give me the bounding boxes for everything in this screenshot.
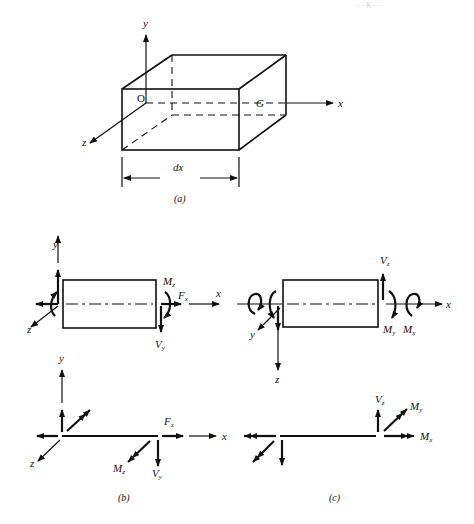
x-axis-label: x bbox=[445, 298, 451, 310]
beam-element-diagram: … g … y x z O G dx (a) bbox=[0, 0, 474, 524]
y-axis-label: y bbox=[58, 352, 64, 364]
z-axis-label: z bbox=[274, 373, 280, 385]
x-axis-label: x bbox=[337, 97, 343, 109]
figure-a-box-element: y x z O G dx (a) bbox=[81, 17, 343, 205]
figure-b-beam-segment: y z Mz Fx Vy x bbox=[26, 236, 221, 352]
centroid-label: G bbox=[256, 97, 264, 109]
shear-y-label: Vy bbox=[152, 467, 163, 481]
shear-z-label: Vz bbox=[375, 393, 385, 407]
x-axis-label: x bbox=[221, 430, 227, 442]
header-text-fragment: … g … bbox=[355, 0, 382, 8]
moment-y-label: My bbox=[382, 323, 396, 337]
z-axis-label: z bbox=[29, 457, 35, 469]
caption-b: (b) bbox=[118, 492, 130, 504]
x-axis-label: x bbox=[215, 287, 221, 299]
shear-y-label: Vy bbox=[155, 338, 166, 352]
caption-a: (a) bbox=[174, 193, 186, 205]
origin-label: O bbox=[137, 92, 145, 104]
y-axis-label: y bbox=[142, 17, 148, 29]
torsion-x-label: Mx bbox=[402, 323, 416, 337]
torsion-x-label: Mx bbox=[419, 430, 433, 444]
caption-c: (c) bbox=[329, 492, 341, 504]
z-axis-label: z bbox=[81, 136, 87, 148]
y-axis-label: y bbox=[52, 238, 58, 250]
shear-z-label: Vz bbox=[380, 254, 390, 268]
z-axis-label: z bbox=[26, 323, 32, 335]
y-axis-label: y bbox=[249, 328, 255, 340]
z-axis-arrow bbox=[90, 103, 146, 143]
moment-z-label: Mz bbox=[112, 462, 125, 476]
figure-b-vector-representation: y z Fx Mz Vy x (b) bbox=[29, 352, 227, 504]
figure-c-beam-segment: y z Vz x My Mx bbox=[237, 254, 451, 385]
axial-force-label: Fx bbox=[163, 415, 175, 429]
moment-y-label: My bbox=[409, 400, 423, 414]
moment-z-label: Mz bbox=[162, 275, 175, 289]
figure-c-vector-representation: Vz My Mx (c) bbox=[244, 393, 433, 504]
axial-force-label: Fx bbox=[177, 289, 189, 303]
dimension-dx-label: dx bbox=[173, 161, 184, 173]
